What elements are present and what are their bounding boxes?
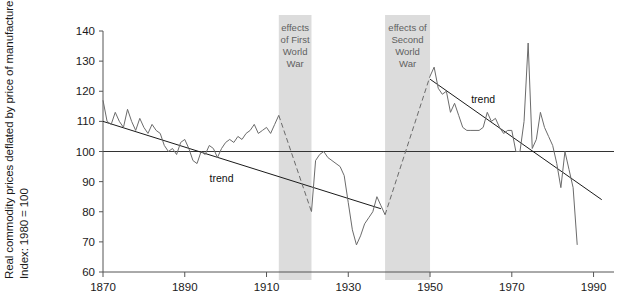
x-tick-label: 1870 [90,281,116,293]
trend-annotation: trend [210,172,234,184]
chart-plot: 6070809010011012013014018701890191019301… [0,0,627,305]
y-tick-label: 80 [82,206,95,218]
ticks [99,31,594,277]
y-axis-label-block: Real commodity prices deflated by price … [0,0,46,285]
x-tick-label: 1930 [335,281,361,293]
trend-line [430,79,602,200]
x-tick-label: 1950 [417,281,443,293]
figure-container: Real commodity prices deflated by price … [0,0,627,305]
y-tick-label: 120 [76,85,95,97]
y-axis-label-secondary: Index: 1980 = 100 [18,188,30,279]
x-tick-label: 1970 [499,281,525,293]
band-labels: effectsof FirstWorldWareffects ofSecondW… [281,22,427,69]
band-label-line: War [287,58,304,69]
y-tick-label: 90 [82,176,95,188]
trend-lines [103,79,602,209]
band-label-line: effects of [388,22,427,33]
trend-annotation: trend [471,93,495,105]
y-tick-label: 130 [76,55,95,67]
y-tick-label: 60 [82,266,95,278]
band-label-line: World [395,46,420,57]
y-tick-label: 140 [76,25,95,37]
series-line [103,100,279,163]
x-tick-label: 1990 [581,281,607,293]
trend-line [103,121,381,208]
band-label-line: Second [391,34,423,45]
band-label-line: World [283,46,308,57]
y-tick-label: 110 [77,115,95,127]
series-line [430,43,577,245]
band-label-line: War [399,58,416,69]
x-tick-label: 1890 [172,281,198,293]
band-label-line: effects [281,22,309,33]
band-label-line: of First [281,34,310,45]
y-tick-label: 70 [82,236,95,248]
x-tick-label: 1910 [254,281,280,293]
y-tick-label: 100 [76,146,95,158]
y-axis-label-primary: Real commodity prices deflated by price … [3,0,15,279]
